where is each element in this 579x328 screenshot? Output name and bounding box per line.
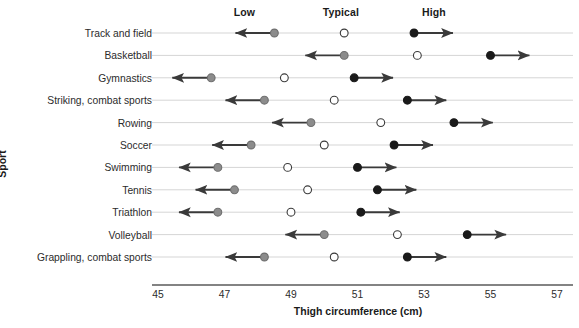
typical-marker: [330, 253, 338, 261]
typical-marker: [284, 164, 292, 172]
low-marker: [270, 29, 278, 37]
x-tick-label: 49: [285, 289, 296, 300]
typical-marker: [304, 186, 312, 194]
typical-marker: [394, 231, 402, 239]
typical-marker: [280, 74, 288, 82]
low-marker: [214, 208, 222, 216]
low-marker: [307, 119, 315, 127]
x-tick-label: 55: [485, 289, 496, 300]
plot-area: [0, 0, 579, 328]
typical-marker: [377, 119, 385, 127]
typical-marker: [330, 96, 338, 104]
typical-marker: [413, 52, 421, 60]
typical-marker: [287, 208, 295, 216]
low-marker: [231, 186, 239, 194]
high-marker: [487, 52, 495, 60]
high-marker: [354, 164, 362, 172]
high-marker: [403, 96, 411, 104]
high-marker: [357, 208, 365, 216]
x-tick-label: 53: [418, 289, 429, 300]
high-marker: [350, 74, 358, 82]
low-marker: [207, 74, 215, 82]
high-marker: [463, 231, 471, 239]
x-tick-label: 45: [152, 289, 163, 300]
high-marker: [410, 29, 418, 37]
low-marker: [320, 231, 328, 239]
typical-marker: [340, 29, 348, 37]
low-marker: [214, 164, 222, 172]
high-marker: [403, 253, 411, 261]
thigh-circumference-chart: LowTypicalHigh Sport Track and fieldBask…: [0, 0, 579, 328]
typical-marker: [320, 141, 328, 149]
high-marker: [374, 186, 382, 194]
high-marker: [450, 119, 458, 127]
x-tick-label: 57: [551, 289, 562, 300]
high-marker: [390, 141, 398, 149]
plot-svg: [0, 0, 579, 328]
low-marker: [247, 141, 255, 149]
low-marker: [261, 253, 269, 261]
x-tick-label: 47: [219, 289, 230, 300]
low-marker: [340, 52, 348, 60]
x-axis-title: Thigh circumference (cm): [294, 305, 422, 317]
x-tick-label: 51: [352, 289, 363, 300]
low-marker: [261, 96, 269, 104]
